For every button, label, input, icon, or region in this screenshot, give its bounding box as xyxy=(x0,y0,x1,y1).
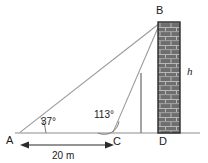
vertex-label-a: A xyxy=(6,135,13,146)
distance-label: 20 m xyxy=(52,151,74,161)
brick-wall xyxy=(158,22,180,133)
angle-label-a: 37° xyxy=(41,117,56,127)
angle-arc-c xyxy=(98,121,119,134)
height-label: h xyxy=(187,66,193,77)
diagram-canvas xyxy=(0,0,208,163)
angle-label-c: 113° xyxy=(94,110,114,120)
vertex-label-c: C xyxy=(113,136,121,147)
dimension-arrowhead-left xyxy=(20,142,29,149)
geometry-diagram: A B C D 37° 113° h 20 m xyxy=(0,0,208,163)
line-segment-cb xyxy=(113,23,160,132)
vertex-label-d: D xyxy=(159,136,167,147)
vertex-label-b: B xyxy=(156,5,163,16)
